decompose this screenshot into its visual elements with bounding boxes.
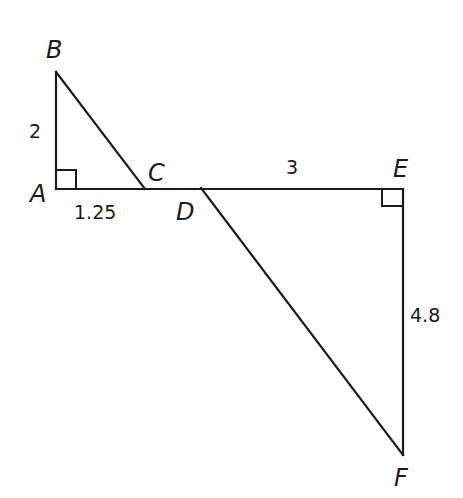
segment-df [201, 188, 403, 455]
right-angle-mark-a [56, 170, 76, 189]
measure-ef: 4.8 [410, 304, 440, 326]
measure-de: 3 [286, 156, 298, 178]
vertex-label-f: F [394, 464, 409, 492]
vertex-label-e: E [393, 155, 409, 183]
vertex-label-c: C [148, 159, 165, 187]
right-angle-mark-e [382, 189, 403, 206]
vertex-label-d: D [176, 198, 194, 226]
measure-ac: 1.25 [74, 201, 116, 223]
vertex-label-b: B [46, 36, 62, 64]
vertex-label-a: A [28, 180, 46, 208]
measure-ab: 2 [29, 120, 41, 142]
segment-bc [56, 72, 145, 189]
geometry-diagram: B A C D E F 2 1.25 3 4.8 [0, 0, 463, 498]
